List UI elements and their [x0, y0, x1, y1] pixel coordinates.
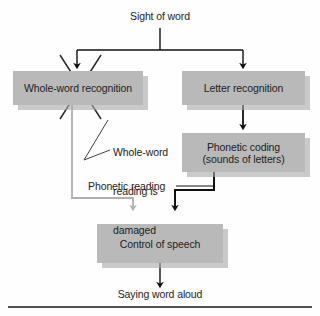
- annotation-damaged-line3: damaged: [113, 224, 183, 237]
- node-phonetic-coding-label-line2: (sounds of letters): [202, 153, 284, 166]
- node-letter-recognition[interactable]: Letter recognition: [182, 71, 305, 105]
- reading-model-diagram: Sight of word Whole-word recognition Let…: [0, 0, 320, 316]
- label-phonetic-reading: Phonetic reading: [88, 180, 178, 193]
- node-phonetic-coding[interactable]: Phonetic coding (sounds of letters): [182, 133, 305, 172]
- label-saying-word-aloud: Saying word aloud: [100, 288, 220, 301]
- bottom-divider-rule: [8, 306, 312, 308]
- node-letter-recognition-label: Letter recognition: [204, 82, 283, 95]
- node-whole-word-recognition-label: Whole-word recognition: [24, 82, 132, 95]
- label-sight-of-word: Sight of word: [100, 10, 220, 23]
- annotation-damaged-line1: Whole-word: [113, 146, 183, 159]
- node-phonetic-coding-label-line1: Phonetic coding: [207, 141, 280, 154]
- node-whole-word-recognition[interactable]: Whole-word recognition: [13, 71, 143, 105]
